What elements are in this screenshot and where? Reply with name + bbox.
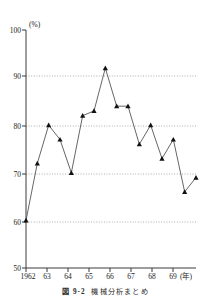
figure-caption: 図 9-2機械分析まとめ [0, 288, 211, 297]
x-tick-label-1967: 67 [127, 272, 135, 281]
x-tick-label-1969: 69 [169, 272, 177, 281]
y-axis-unit-label: (%) [29, 20, 41, 29]
data-point [103, 65, 108, 70]
y-tick-label-80: 80 [14, 122, 22, 131]
x-tick-label-1964: 64 [64, 272, 72, 281]
y-tick-label-90: 90 [14, 72, 22, 81]
caption-number: 図 9-2 [62, 288, 85, 296]
x-tick-label-1965: 65 [85, 272, 93, 281]
data-point [148, 123, 153, 128]
x-tick-label-1968: 68 [148, 272, 156, 281]
y-tick-label-70: 70 [14, 170, 22, 179]
y-tick-label-60: 60 [14, 218, 22, 227]
y-tick-labels: 100 90 80 70 60 50 [10, 26, 22, 273]
gridlines [26, 76, 196, 222]
x-tick-label-1962: 1962 [21, 272, 36, 281]
data-point-markers [23, 65, 198, 222]
data-point [91, 108, 96, 113]
y-tick-label-100: 100 [10, 26, 22, 35]
data-point [171, 137, 176, 142]
data-point [23, 218, 28, 223]
data-series-line [26, 68, 196, 220]
x-axis-unit-label: (年) [180, 271, 192, 281]
x-tick-label-1963: 63 [43, 272, 51, 281]
figure-container: 100 90 80 70 60 50 (%) 1962 63 64 65 66 … [0, 0, 211, 300]
x-tick-labels: 1962 63 64 65 66 67 68 69 [21, 272, 178, 281]
y-tick-marks [22, 30, 26, 268]
data-point [159, 156, 164, 161]
x-tick-label-1966: 66 [106, 272, 114, 281]
data-point [193, 175, 198, 180]
data-point [137, 142, 142, 147]
axis-lines [26, 30, 196, 268]
caption-text: 機械分析まとめ [91, 288, 148, 296]
data-point [69, 170, 74, 175]
data-point [35, 161, 40, 166]
line-chart: 100 90 80 70 60 50 (%) 1962 63 64 65 66 … [0, 0, 211, 300]
data-point [46, 123, 51, 128]
data-point [80, 113, 85, 118]
